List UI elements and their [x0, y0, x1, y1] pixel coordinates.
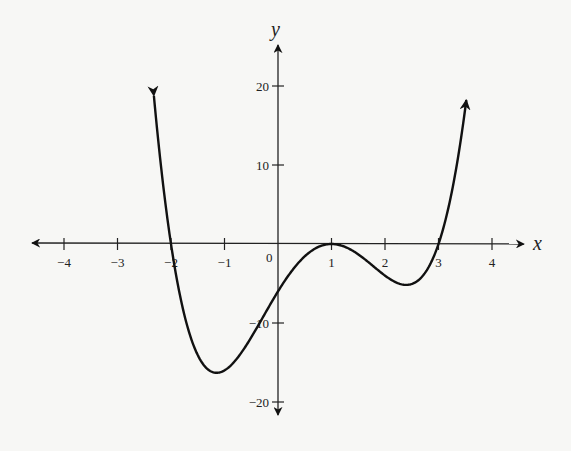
origin-label: 0 — [266, 250, 273, 265]
y-tick-label: 10 — [256, 158, 269, 173]
x-tick-label: 1 — [328, 255, 335, 270]
function-curve — [154, 96, 466, 373]
x-tick-label: 3 — [435, 255, 442, 270]
y-tick-label: 20 — [256, 79, 269, 94]
y-axis-label: y — [269, 18, 280, 41]
x-tick-label: −3 — [111, 255, 125, 270]
y-ticks: 2010−10−20 — [249, 79, 284, 410]
x-axis-label: x — [532, 232, 542, 254]
function-graph: −4−3−2−11234 2010−10−20 0 x y — [0, 0, 571, 451]
x-tick-label: −4 — [57, 255, 71, 270]
x-tick-label: 4 — [489, 255, 496, 270]
y-tick-label: −20 — [249, 395, 269, 410]
x-tick-label: 2 — [382, 255, 389, 270]
x-tick-label: −1 — [218, 255, 232, 270]
